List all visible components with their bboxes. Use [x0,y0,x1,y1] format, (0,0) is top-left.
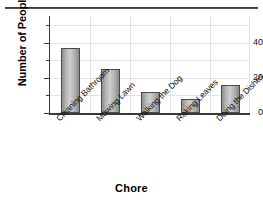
gridline-horizontal [50,43,250,44]
gridline-horizontal [50,25,250,26]
gridline-horizontal [50,60,250,61]
gridline-vertical [130,16,131,113]
chart-figure: Number of People 02040 Cleaning Bathroom… [0,0,263,204]
gridline-vertical [210,16,211,113]
y-axis-title-container: Number of People [0,14,22,114]
y-axis-title: Number of People [16,0,28,90]
gridline-horizontal [50,78,250,79]
x-axis-title: Chore [0,182,263,194]
gridline-vertical [249,16,250,113]
gridline-vertical [170,16,171,113]
gridline-vertical [90,16,91,113]
top-divider-rule [5,7,258,9]
